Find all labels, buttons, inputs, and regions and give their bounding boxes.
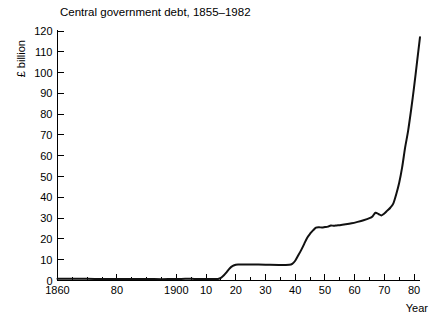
x-tick-label: 60 xyxy=(349,284,361,296)
x-tick-label: 20 xyxy=(230,284,242,296)
y-axis-title: £ billion xyxy=(15,40,27,77)
y-tick-label: 100 xyxy=(34,67,52,79)
x-tick-label: 40 xyxy=(289,284,301,296)
x-tick-label: 30 xyxy=(259,284,271,296)
y-tick-label: 10 xyxy=(40,254,52,266)
x-tick-label: 50 xyxy=(319,284,331,296)
chart-figure: Central government debt, 1855–1982 £ bil… xyxy=(0,0,448,321)
y-axis-ticks: 0102030405060708090100110120 xyxy=(34,25,63,287)
y-tick-label: 70 xyxy=(40,129,52,141)
x-tick-label: 80 xyxy=(408,284,420,296)
y-tick-label: 40 xyxy=(40,191,52,203)
debt-series-line xyxy=(58,37,421,279)
x-tick-label: 10 xyxy=(200,284,212,296)
chart-title: Central government debt, 1855–1982 xyxy=(60,6,251,18)
y-tick-label: 20 xyxy=(40,233,52,245)
y-tick-label: 50 xyxy=(40,171,52,183)
x-axis-title: Year xyxy=(406,302,429,314)
y-tick-label: 110 xyxy=(35,46,53,58)
x-tick-label: 70 xyxy=(378,284,390,296)
line-chart: Central government debt, 1855–1982 £ bil… xyxy=(0,0,448,321)
y-tick-label: 80 xyxy=(40,108,52,120)
y-tick-label: 120 xyxy=(34,25,52,37)
x-tick-label: 1900 xyxy=(164,284,188,296)
x-axis-ticks: 18608019001020304050607080 xyxy=(45,274,420,296)
x-tick-label: 1860 xyxy=(45,284,69,296)
y-tick-label: 90 xyxy=(40,87,52,99)
x-tick-label: 80 xyxy=(111,284,123,296)
y-tick-label: 60 xyxy=(40,150,52,162)
y-tick-label: 30 xyxy=(40,212,52,224)
